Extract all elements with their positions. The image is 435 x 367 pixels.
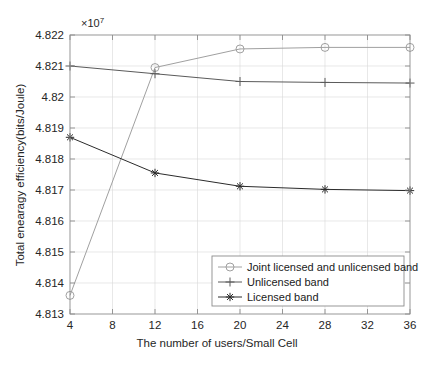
x-tick-label: 12 bbox=[149, 319, 162, 331]
x-tick-label: 36 bbox=[404, 319, 417, 331]
y-tick-label: 4.817 bbox=[35, 184, 64, 196]
x-tick-label: 16 bbox=[191, 319, 204, 331]
chart-background bbox=[0, 0, 435, 367]
x-tick-label: 4 bbox=[67, 319, 74, 331]
y-tick-label: 4.821 bbox=[35, 60, 64, 72]
y-tick-label: 4.815 bbox=[35, 246, 64, 258]
y-tick-label: 4.813 bbox=[35, 308, 64, 320]
legend-label: Joint licensed and unlicensed band bbox=[247, 261, 418, 273]
y-axis-exponent-mantissa: ×10 bbox=[81, 17, 100, 29]
legend-label: Licensed band bbox=[247, 291, 319, 303]
y-tick-label: 4.82 bbox=[42, 91, 64, 103]
x-tick-label: 8 bbox=[109, 319, 115, 331]
chart-legend: Joint licensed and unlicensed bandUnlice… bbox=[212, 256, 418, 306]
legend-label: Unlicensed band bbox=[247, 276, 329, 288]
y-tick-label: 4.822 bbox=[35, 29, 64, 41]
y-tick-label: 4.814 bbox=[35, 277, 64, 289]
x-tick-label: 32 bbox=[361, 319, 374, 331]
energy-efficiency-chart: 4812162024283236 4.8134.8144.8154.8164.8… bbox=[0, 0, 435, 367]
x-axis-label: The number of users/Small Cell bbox=[136, 337, 297, 349]
legend-item-0[interactable]: Joint licensed and unlicensed band bbox=[218, 261, 418, 273]
x-tick-label: 20 bbox=[234, 319, 247, 331]
x-tick-label: 24 bbox=[276, 319, 289, 331]
y-tick-label: 4.819 bbox=[35, 122, 64, 134]
y-tick-label: 4.818 bbox=[35, 153, 64, 165]
y-axis-label: Total enearagy efficiency(bits/Joule) bbox=[14, 84, 26, 267]
y-axis-exponent-power: 7 bbox=[100, 16, 105, 25]
x-tick-label: 28 bbox=[319, 319, 332, 331]
y-tick-label: 4.816 bbox=[35, 215, 64, 227]
